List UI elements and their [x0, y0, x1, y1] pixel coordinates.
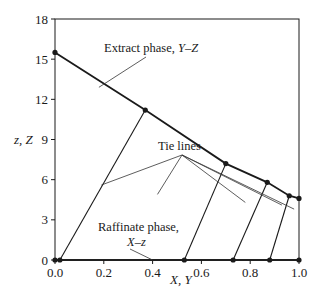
y-tick-label: 6 [42, 172, 49, 187]
x-tick-label: 0.0 [47, 265, 63, 280]
tie-line [184, 164, 225, 260]
tie-lines-leader [157, 155, 182, 194]
extract-point [265, 180, 270, 185]
extract-point [296, 196, 301, 201]
y-tick-label: 12 [35, 92, 48, 107]
extract-point [143, 107, 148, 112]
tie-lines-leader [101, 155, 182, 185]
raffinate-phase-label: Raffinate phase, [98, 220, 179, 234]
extract-phase-label: Extract phase, Y–Z [104, 41, 199, 55]
extract-phase-curve [55, 52, 299, 198]
raffinate-point [57, 257, 62, 262]
x-tick-label: 0.4 [144, 265, 161, 280]
raffinate-point [231, 257, 236, 262]
raffinate-leader [130, 249, 153, 260]
raffinate-point [296, 257, 301, 262]
y-tick-label: 15 [35, 52, 48, 67]
ternary-extraction-chart: 0.00.20.40.60.81.00369121518 Extract pha… [0, 0, 319, 302]
x-tick-label: 0.8 [242, 265, 258, 280]
x-tick-label: 0.6 [193, 265, 210, 280]
y-tick-label: 0 [42, 253, 49, 268]
tie-lines [60, 110, 289, 260]
y-tick-label: 18 [35, 12, 48, 27]
extract-point [52, 50, 57, 55]
x-axis-title: X, Y [169, 272, 193, 287]
raffinate-point [182, 257, 187, 262]
y-tick-label: 9 [42, 132, 49, 147]
y-axis-title: z, Z [13, 132, 34, 147]
extract-leader [99, 57, 146, 87]
x-tick-label: 1.0 [291, 265, 307, 280]
tie-lines-leader [182, 155, 245, 202]
extract-point [287, 193, 292, 198]
tie-lines-label: Tie lines [158, 139, 201, 153]
tie-lines-leader [182, 155, 294, 209]
y-tick-label: 3 [42, 212, 49, 227]
x-tick-label: 0.2 [96, 265, 112, 280]
extract-point [223, 161, 228, 166]
raffinate-phase-label-line2: X–z [126, 235, 146, 249]
raffinate-point [52, 257, 57, 262]
raffinate-point [267, 257, 272, 262]
